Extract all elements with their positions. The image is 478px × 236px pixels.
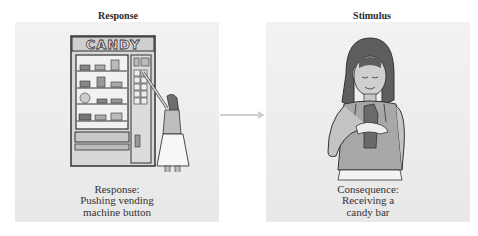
caption-line: Pushing vending <box>15 195 219 207</box>
left-panel-title: Response <box>58 10 178 21</box>
consequence-caption: Consequence: Receiving a candy bar <box>266 184 470 219</box>
caption-line: candy bar <box>266 207 470 219</box>
candy-sign: CANDY <box>86 37 141 52</box>
response-panel: CANDY <box>15 22 219 222</box>
caption-line: Receiving a <box>266 195 470 207</box>
right-panel-title: Stimulus <box>312 10 432 21</box>
response-caption: Response: Pushing vending machine button <box>15 184 219 219</box>
girl-with-candy-illustration <box>266 22 470 182</box>
stimulus-panel: Consequence: Receiving a candy bar <box>266 22 470 222</box>
arrow-right-icon <box>220 110 266 120</box>
vending-machine-illustration: CANDY <box>15 22 219 172</box>
caption-line: machine button <box>15 207 219 219</box>
